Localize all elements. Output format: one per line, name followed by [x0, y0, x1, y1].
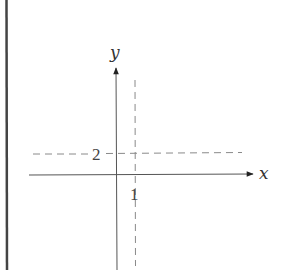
- dashed-line-y-equals-2-right: [106, 153, 242, 154]
- label-y-equals-2: 2: [92, 145, 101, 164]
- left-border: [7, 0, 8, 270]
- label-x-equals-1: 1: [130, 185, 139, 204]
- x-axis-label: x: [259, 163, 269, 183]
- dashed-line-x-equals-1: [135, 80, 136, 266]
- coordinate-diagram: y x 2 1: [0, 0, 295, 270]
- y-axis-label: y: [109, 42, 120, 62]
- x-axis: [29, 174, 253, 175]
- y-axis: [116, 68, 117, 270]
